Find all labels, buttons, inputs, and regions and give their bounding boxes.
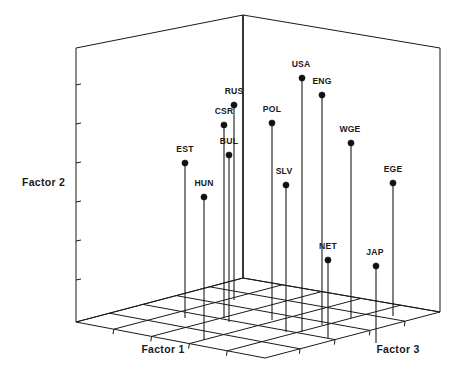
factor1-tick [113,329,114,334]
marker-dot [231,102,237,108]
point-label: ENG [312,76,331,86]
factor3-tick [369,330,370,335]
grid-line-x [227,305,400,351]
marker-dot [390,180,396,186]
data-point-rus: RUS [225,86,244,300]
data-point-wge: WGE [339,124,360,318]
factor2-tick [76,279,81,280]
factor3-tick [334,340,335,345]
data-point-hun: HUN [194,178,213,340]
marker-dot [269,120,275,126]
factor2-tick [76,84,81,85]
marker-dot [325,257,331,263]
marker-dot [226,152,232,158]
factor3-tick [299,349,300,354]
grid-line-x [152,292,322,337]
factor1-tick [189,344,190,349]
data-point-slv: SLV [276,166,293,332]
factor1-tick [151,336,152,341]
factor2-tick [76,201,81,202]
grid-line-x [114,285,283,329]
point-label: JAP [366,247,383,257]
data-point-eng: ENG [312,76,331,325]
point-label: RUS [225,86,244,96]
axis-title-factor1: Factor 1 [141,343,184,355]
axis-title-factor3: Factor 3 [376,343,419,355]
data-point-bul: BUL [220,136,238,322]
point-label: NET [319,241,337,251]
point-label: USA [292,59,311,69]
grid-line-z [109,313,300,349]
point-label: EGE [384,164,403,174]
axis-title-factor2: Factor 2 [22,176,65,188]
point-label: SLV [276,166,293,176]
point-label: WGE [339,124,360,134]
marker-dot [182,160,188,166]
marker-dot [299,75,305,81]
factor2-tick [76,123,81,124]
grid-line-x [189,298,361,343]
point-label: HUN [194,178,213,188]
factor2-tick [76,162,81,163]
factor2-tick [76,240,81,241]
data-point-pol: POL [263,104,281,320]
marker-dot [283,182,289,188]
point-label: EST [176,144,194,154]
marker-dot [201,194,207,200]
grid-line-x [76,278,243,322]
point-label: CSR [215,106,234,116]
marker-dot [373,263,379,269]
grid-line-z [176,296,370,331]
factor1-tick [226,351,227,356]
factor3-tick [404,321,405,326]
marker-dot [221,122,227,128]
marker-dot [348,140,354,146]
factor2-axis-ticks [76,84,81,280]
data-point-ege: EGE [384,164,403,316]
point-label: BUL [220,136,238,146]
grid-line-z [143,304,335,339]
data-point-usa: USA [292,59,311,332]
chart-canvas: ESTHUNCSRRUSBULPOLSLVUSAENGWGEEGENETJAP … [0,0,455,380]
point-label: POL [263,104,281,114]
marker-dot [319,92,325,98]
scatter3d-chart: ESTHUNCSRRUSBULPOLSLVUSAENGWGEEGENETJAP … [0,0,455,380]
left-wall-outline [76,15,243,322]
